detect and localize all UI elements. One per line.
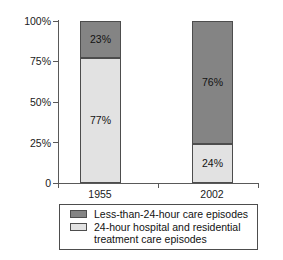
bar-2002-segment-light-label: 24% [202,158,223,169]
legend-item-24-hour-hospital[interactable]: 24-hour hospital and residential treatme… [70,222,254,245]
x-axis-tick-mark-mid [158,183,159,188]
bar-1955-segment-light[interactable]: 77% [80,58,121,183]
bar-2002-segment-light[interactable]: 24% [192,144,233,183]
y-axis-tick-label-100: 100% [0,16,51,27]
bar-1955-segment-dark[interactable]: 23% [80,21,121,58]
legend: Less-than-24-hour care episodes 24-hour … [59,204,258,250]
x-axis-label-2002: 2002 [182,189,242,200]
legend-label-less-than-24-hour: Less-than-24-hour care episodes [94,209,248,221]
plot-area: 23% 77% 76% 24% [59,21,259,183]
stacked-bar-chart: 100% 75% 50% 25% 0 23% 77% 76% 24% [0,0,283,260]
bar-2002[interactable]: 76% 24% [192,21,233,183]
x-axis-tick-mark-left [58,183,59,188]
legend-label-24-hour-hospital: 24-hour hospital and residential treatme… [94,222,254,245]
legend-swatch-light-icon [70,223,87,231]
x-axis-label-1955: 1955 [70,189,130,200]
y-axis-tick-label-50: 50% [0,97,51,108]
bar-2002-segment-dark-label: 76% [202,77,223,88]
y-axis-tick-label-25: 25% [0,138,51,149]
y-axis-tick-label-75: 75% [0,56,51,67]
x-axis-tick-mark-right [258,183,259,188]
y-axis-tick-label-0: 0 [0,178,51,189]
bar-1955[interactable]: 23% 77% [80,21,121,183]
bar-2002-segment-dark[interactable]: 76% [192,21,233,144]
bar-1955-segment-dark-label: 23% [90,34,111,45]
legend-swatch-dark-icon [70,210,87,218]
y-axis-labels: 100% 75% 50% 25% 0 [0,0,51,260]
legend-item-less-than-24-hour[interactable]: Less-than-24-hour care episodes [70,209,248,221]
bar-1955-segment-light-label: 77% [90,115,111,126]
